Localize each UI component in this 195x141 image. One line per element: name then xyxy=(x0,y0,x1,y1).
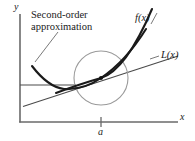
x-axis-label: x xyxy=(180,111,184,122)
quadratic-approximation-curve xyxy=(32,29,146,89)
second-order-approximation-label: Second-order approximation xyxy=(31,9,92,33)
tangency-point-dot xyxy=(99,76,103,80)
tangent-line-label: L(x) xyxy=(161,49,179,61)
lx-leader-line xyxy=(150,56,159,59)
note-leader-line xyxy=(35,32,58,62)
x-tick-label-a: a xyxy=(98,126,103,137)
second-order-approximation-figure: Second-order approximation y x a f(x) L(… xyxy=(0,0,195,141)
figure-canvas xyxy=(0,0,195,141)
fx-leader-line xyxy=(151,13,157,24)
y-axis-label: y xyxy=(14,1,18,12)
function-curve-label: f(x) xyxy=(135,12,150,24)
